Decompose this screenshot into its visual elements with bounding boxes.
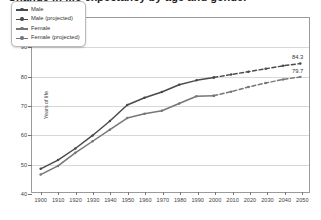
data-point bbox=[299, 76, 301, 78]
legend-marker-icon bbox=[16, 35, 28, 42]
x-tick-label: 1990 bbox=[191, 197, 203, 203]
legend-label: Male bbox=[31, 7, 44, 13]
data-point bbox=[126, 117, 128, 119]
data-point bbox=[74, 152, 76, 154]
y-tick-label: 60 bbox=[21, 132, 27, 138]
x-tick-mark bbox=[250, 192, 251, 195]
data-point bbox=[264, 68, 266, 70]
legend-item[interactable]: Female bbox=[16, 24, 80, 34]
series-line-male bbox=[41, 77, 214, 168]
legend-item[interactable]: Male bbox=[16, 5, 80, 15]
x-tick-label: 1950 bbox=[122, 197, 134, 203]
x-tick-label: 2050 bbox=[296, 197, 308, 203]
x-tick-mark bbox=[215, 192, 216, 195]
x-tick-label: 2020 bbox=[244, 197, 256, 203]
x-tick-mark bbox=[58, 192, 59, 195]
data-point bbox=[39, 173, 41, 175]
data-point bbox=[161, 91, 163, 93]
data-point bbox=[213, 94, 215, 96]
x-tick-mark bbox=[41, 192, 42, 195]
data-point bbox=[213, 76, 215, 78]
x-tick-label: 1920 bbox=[69, 197, 81, 203]
y-axis-title: Years of life bbox=[43, 75, 49, 135]
x-tick-label: 1900 bbox=[34, 197, 46, 203]
series-line-female bbox=[41, 96, 214, 175]
legend-marker-icon bbox=[16, 25, 28, 32]
x-tick-label: 1930 bbox=[87, 197, 99, 203]
data-point bbox=[126, 104, 128, 106]
x-tick-label: 2030 bbox=[261, 197, 273, 203]
data-point bbox=[143, 112, 145, 114]
x-tick-mark bbox=[128, 192, 129, 195]
x-tick-mark bbox=[302, 192, 303, 195]
x-tick-mark bbox=[93, 192, 94, 195]
life-expectancy-chart: Change in life expectancy by age and gen… bbox=[0, 0, 321, 220]
data-point bbox=[39, 168, 41, 170]
data-point bbox=[109, 128, 111, 130]
x-tick-label: 1980 bbox=[174, 197, 186, 203]
data-point bbox=[91, 140, 93, 142]
y-tick-label: 50 bbox=[21, 162, 27, 168]
data-point bbox=[299, 62, 301, 64]
x-tick-mark bbox=[110, 192, 111, 195]
x-tick-label: 1970 bbox=[157, 197, 169, 203]
data-point bbox=[264, 82, 266, 84]
data-point bbox=[195, 79, 197, 81]
legend-label: Female (projected) bbox=[31, 35, 80, 41]
x-tick-mark bbox=[198, 192, 199, 195]
legend-item[interactable]: Female (projected) bbox=[16, 34, 80, 44]
x-tick-mark bbox=[233, 192, 234, 195]
male-end-value: 84.3 bbox=[292, 54, 303, 60]
series-line-male-projected bbox=[214, 64, 301, 78]
data-point bbox=[282, 65, 284, 67]
data-point bbox=[247, 86, 249, 88]
data-point bbox=[57, 165, 59, 167]
legend-item[interactable]: Male (projected) bbox=[16, 15, 80, 25]
data-point bbox=[282, 78, 284, 80]
x-tick-mark bbox=[285, 192, 286, 195]
data-point bbox=[143, 97, 145, 99]
legend-marker-icon bbox=[16, 16, 28, 23]
x-tick-label: 1960 bbox=[139, 197, 151, 203]
data-point bbox=[91, 134, 93, 136]
data-point bbox=[195, 95, 197, 97]
data-point bbox=[230, 90, 232, 92]
legend-label: Female bbox=[31, 26, 50, 32]
x-tick-mark bbox=[267, 192, 268, 195]
y-tick-label: 70 bbox=[21, 103, 27, 109]
x-tick-mark bbox=[76, 192, 77, 195]
data-point bbox=[161, 110, 163, 112]
data-point bbox=[247, 70, 249, 72]
x-tick-label: 2040 bbox=[279, 197, 291, 203]
y-tick-label: 80 bbox=[21, 74, 27, 80]
y-tick-label: 40 bbox=[21, 191, 27, 197]
data-point bbox=[109, 120, 111, 122]
y-tick-mark bbox=[28, 194, 32, 195]
x-tick-label: 1910 bbox=[52, 197, 64, 203]
legend-label: Male (projected) bbox=[31, 16, 73, 22]
x-tick-label: 1940 bbox=[104, 197, 116, 203]
data-point bbox=[230, 73, 232, 75]
x-tick-label: 2000 bbox=[209, 197, 221, 203]
data-point bbox=[74, 147, 76, 149]
x-tick-label: 2010 bbox=[226, 197, 238, 203]
chart-legend: MaleMale (projected)FemaleFemale (projec… bbox=[11, 1, 86, 47]
x-tick-mark bbox=[145, 192, 146, 195]
series-line-female-projected bbox=[214, 77, 301, 96]
legend-marker-icon bbox=[16, 6, 28, 13]
female-end-value: 79.7 bbox=[292, 68, 303, 74]
data-point bbox=[178, 83, 180, 85]
x-tick-mark bbox=[180, 192, 181, 195]
data-point bbox=[178, 102, 180, 104]
x-tick-mark bbox=[163, 192, 164, 195]
data-point bbox=[57, 159, 59, 161]
